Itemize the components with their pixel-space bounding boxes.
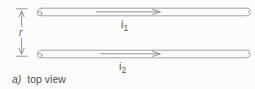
figure-caption: a)top view bbox=[12, 73, 66, 85]
wire-2 bbox=[37, 50, 250, 58]
current-label-1: i1 bbox=[121, 18, 128, 34]
figure-drawing: r i1 i2 a)top view bbox=[0, 0, 255, 89]
caption-prefix: a) bbox=[12, 73, 21, 85]
two-parallel-wires-figure: r i1 i2 a)top view bbox=[0, 0, 255, 89]
wire-1-left-curl bbox=[38, 11, 42, 15]
caption-text: top view bbox=[27, 73, 66, 85]
distance-label: r bbox=[19, 27, 23, 38]
wire-1 bbox=[37, 8, 250, 16]
wire-2-left-curl bbox=[38, 53, 42, 57]
down-arrow-icon bbox=[19, 38, 24, 54]
current-1-right-arrow-icon bbox=[96, 9, 161, 14]
wire-2-right-cap bbox=[246, 50, 251, 58]
wire-1-right-cap bbox=[246, 8, 251, 16]
up-arrow-icon bbox=[19, 11, 24, 27]
current-2-right-arrow-icon bbox=[100, 51, 161, 56]
current-label-2: i2 bbox=[119, 60, 126, 76]
distance-dimension: r bbox=[17, 9, 28, 56]
